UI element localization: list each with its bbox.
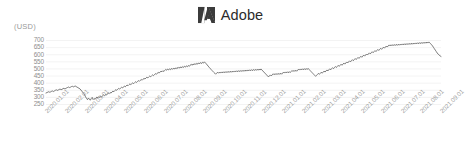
adobe-stock-chart: Adobe (USD) 7006506005505004504003503002…	[0, 0, 460, 161]
plot-area: 700650600550500450400350300250 2020.01.0…	[0, 0, 460, 161]
x-axis-tick-labels: 2020.01.012020.02.012020.03.012020.04.01…	[0, 0, 460, 161]
